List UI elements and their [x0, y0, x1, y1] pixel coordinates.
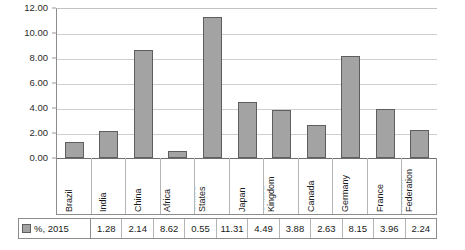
- bar-slot: [264, 9, 299, 158]
- category-cell: France: [368, 158, 403, 214]
- bar: [238, 102, 257, 158]
- y-axis-tick-label: 4.00: [30, 103, 49, 113]
- value-cell: 0.55: [185, 219, 216, 238]
- category-label-line: States: [197, 186, 207, 212]
- plot-area: [56, 8, 437, 158]
- value-cell: 3.96: [374, 219, 405, 238]
- value-cell: 1.28: [91, 219, 122, 238]
- y-axis-tick-label: 10.00: [24, 28, 48, 38]
- bar: [99, 131, 118, 158]
- category-cell: Germany: [333, 158, 368, 214]
- y-axis-tick-label: 0.00: [30, 153, 49, 163]
- category-label-line: Africa: [162, 188, 172, 212]
- bar-slot: [161, 9, 196, 158]
- legend-swatch-icon: [22, 224, 31, 233]
- category-label: France: [375, 184, 385, 212]
- value-cell: 4.49: [248, 219, 279, 238]
- category-label: China: [133, 188, 143, 212]
- value-cell: 11.31: [217, 219, 248, 238]
- data-table: %, 2015 1.282.148.620.5511.314.493.882.6…: [18, 218, 437, 239]
- category-label: SouthAfrica: [161, 188, 173, 212]
- y-axis-tick-label: 6.00: [30, 78, 49, 88]
- bar-slot: [195, 9, 230, 158]
- category-cell: Canada: [299, 158, 334, 214]
- bar: [376, 109, 395, 159]
- category-label-line: Germany: [340, 175, 350, 212]
- category-label: Germany: [340, 175, 350, 212]
- category-axis: BrazilIndiaChinaSouthAfricaUnitedStatesJ…: [56, 158, 437, 215]
- category-label: Brazil: [64, 189, 74, 212]
- bar: [65, 142, 84, 158]
- bar-slot: [57, 9, 92, 158]
- bar-slot: [230, 9, 265, 158]
- category-label-line: Japan: [237, 187, 247, 212]
- bar-slot: [333, 9, 368, 158]
- bar-slot: [368, 9, 403, 158]
- value-cell: 8.15: [343, 219, 374, 238]
- category-cell: UnitedStates: [195, 158, 230, 214]
- category-label-line: Canada: [306, 180, 316, 212]
- value-cell: 8.62: [154, 219, 185, 238]
- y-axis: 12.0010.008.006.004.002.000.00: [0, 8, 52, 160]
- category-label: Japan: [237, 187, 247, 212]
- bar-slot: [299, 9, 334, 158]
- bar-slot: [126, 9, 161, 158]
- category-label-line: India: [98, 192, 108, 212]
- value-cell: 2.24: [406, 219, 436, 238]
- category-label: UnitedStates: [195, 186, 207, 212]
- category-label: Canada: [306, 180, 316, 212]
- bar: [410, 130, 429, 158]
- category-cell: Japan: [230, 158, 265, 214]
- bar: [272, 110, 291, 159]
- category-cell: SouthAfrica: [161, 158, 196, 214]
- value-cell: 3.88: [280, 219, 311, 238]
- category-cell: RussianFederation: [402, 158, 436, 214]
- value-cells: 1.282.148.620.5511.314.493.882.638.153.9…: [91, 219, 436, 238]
- legend-series-label: %, 2015: [34, 224, 69, 234]
- bars-layer: [57, 9, 437, 158]
- category-cell: Brazil: [57, 158, 92, 214]
- legend: %, 2015: [19, 219, 91, 238]
- category-cell: UnitedKingdom: [264, 158, 299, 214]
- category-label: UnitedKingdom: [264, 176, 276, 212]
- value-cell: 2.63: [311, 219, 342, 238]
- category-cell: India: [92, 158, 127, 214]
- category-label: India: [98, 192, 108, 212]
- bar-chart: 12.0010.008.006.004.002.000.00 BrazilInd…: [0, 0, 465, 250]
- bar: [168, 151, 187, 158]
- bar: [134, 50, 153, 158]
- value-cell: 2.14: [122, 219, 153, 238]
- y-axis-tick-label: 8.00: [30, 53, 49, 63]
- bar: [307, 125, 326, 158]
- category-cell: China: [126, 158, 161, 214]
- y-axis-tick-label: 2.00: [30, 128, 49, 138]
- category-label-line: Kingdom: [266, 176, 276, 212]
- category-label: RussianFederation: [402, 169, 414, 212]
- bar-slot: [402, 9, 437, 158]
- bar-slot: [92, 9, 127, 158]
- category-label-line: France: [375, 184, 385, 212]
- bar: [341, 56, 360, 158]
- category-label-line: China: [133, 188, 143, 212]
- category-label-line: Federation: [404, 169, 414, 212]
- bar: [203, 17, 222, 158]
- category-label-line: Brazil: [64, 189, 74, 212]
- y-axis-tick-label: 12.00: [24, 3, 48, 13]
